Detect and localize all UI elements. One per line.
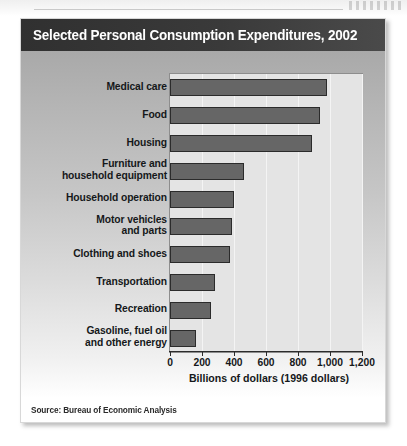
x-axis-tick <box>266 352 267 356</box>
category-label-line: Household operation <box>66 192 167 203</box>
category-label-line: household equipment <box>25 170 167 182</box>
chart-title-bar: Selected Personal Consumption Expenditur… <box>21 19 385 51</box>
category-label: Furniture andhousehold equipment <box>25 158 167 181</box>
category-label-line: Medical care <box>106 81 167 92</box>
x-axis-tick-label: 600 <box>257 357 274 368</box>
chart-card: Selected Personal Consumption Expenditur… <box>20 18 386 423</box>
bar <box>170 246 230 263</box>
bar <box>170 274 215 291</box>
x-axis-tick-label: 0 <box>167 357 173 368</box>
category-label-line: Gasoline, fuel oil <box>86 325 167 336</box>
bar <box>170 218 232 235</box>
category-axis-labels: Medical careFoodHousingFurniture andhous… <box>25 73 167 351</box>
x-axis-tick-label: 400 <box>225 357 242 368</box>
category-label-line: and parts <box>25 225 167 237</box>
x-axis-tick-label: 800 <box>289 357 306 368</box>
category-label: Housing <box>25 137 167 149</box>
page-title: Selected Personal Consumption Expenditur… <box>33 27 357 43</box>
x-axis-tick-label: 1,000 <box>317 357 343 368</box>
category-label-line: Furniture and <box>102 158 167 169</box>
bar <box>170 330 196 347</box>
category-label-line: Food <box>142 109 167 120</box>
category-label: Recreation <box>25 303 167 315</box>
bar <box>170 135 312 152</box>
category-label: Gasoline, fuel oiland other energy <box>25 325 167 348</box>
gridline <box>362 74 363 352</box>
chart-body: Medical careFoodHousingFurniture andhous… <box>21 51 385 423</box>
bar <box>170 79 327 96</box>
category-label: Clothing and shoes <box>25 248 167 260</box>
scan-smudge-mark <box>349 1 401 10</box>
x-axis-title: Billions of dollars (1996 dollars) <box>169 372 369 384</box>
category-label: Food <box>25 109 167 121</box>
category-label-line: Transportation <box>96 276 167 287</box>
x-axis-tick <box>170 352 171 356</box>
category-label: Transportation <box>25 276 167 288</box>
x-axis-tick-label: 1,200 <box>349 357 375 368</box>
bar <box>170 302 211 319</box>
category-label: Household operation <box>25 192 167 204</box>
scan-rule-line <box>34 9 343 10</box>
x-axis-tick <box>298 352 299 356</box>
plot-area <box>169 73 363 353</box>
category-label-line: and other energy <box>25 337 167 349</box>
category-label: Medical care <box>25 81 167 93</box>
category-label-line: Recreation <box>115 303 167 314</box>
bar <box>170 191 234 208</box>
category-label-line: Clothing and shoes <box>73 248 167 259</box>
source-note: Source: Bureau of Economic Analysis <box>31 405 177 415</box>
x-axis-tick <box>362 352 363 356</box>
bar <box>170 107 320 124</box>
category-label: Motor vehiclesand parts <box>25 214 167 237</box>
x-axis-tick <box>234 352 235 356</box>
bar <box>170 163 244 180</box>
x-axis-tick <box>330 352 331 356</box>
bar-series <box>170 74 362 352</box>
scan-artifact-strip <box>0 0 407 16</box>
category-label-line: Housing <box>127 137 167 148</box>
x-axis-tick-label: 200 <box>193 357 210 368</box>
x-axis-tick <box>202 352 203 356</box>
category-label-line: Motor vehicles <box>96 214 167 225</box>
